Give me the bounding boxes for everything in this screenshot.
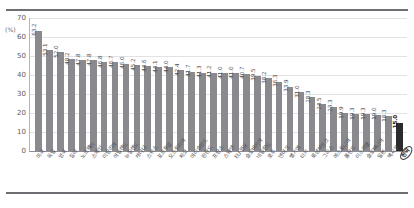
x-label-slot: 캐나다 (131, 154, 142, 200)
x-label-slot: 스위스 (142, 154, 153, 200)
bar-slot: 44.1 (153, 18, 164, 151)
x-label-slot: 프랑스 (208, 154, 219, 200)
x-label-slot: 영국 (54, 154, 65, 200)
y-axis-tick-label: 40 (17, 72, 26, 79)
bar-value-label: 47.8 (77, 53, 83, 65)
bar: 44.0 (166, 67, 173, 151)
bar-value-label: 44.6 (142, 59, 148, 71)
bar: 63.2 (35, 31, 42, 151)
bar-value-label: 40.7 (241, 67, 247, 79)
bar: 41.0 (232, 73, 239, 151)
x-label-slot: 스웨덴 (218, 154, 229, 200)
bar-value-label: 19.0 (372, 108, 378, 120)
bar-slot: 45.2 (131, 18, 142, 151)
bar-slot: 42.4 (175, 18, 186, 151)
top-divider-rule (6, 9, 408, 11)
bar-chart-figure: (%) 010203040506070 63.253.152.048.247.8… (0, 0, 414, 208)
bar-slot: 19.9 (339, 18, 350, 151)
y-axis-tick-label: 20 (17, 110, 26, 117)
bar-slot: 33.9 (285, 18, 296, 151)
y-axis-tick-label: 50 (17, 53, 26, 60)
bar-value-label: 53.1 (44, 43, 50, 55)
bar: 46.8 (101, 62, 108, 151)
bar: 31.0 (298, 92, 305, 151)
bar-value-label: 18.3 (383, 109, 389, 121)
bar-value-label: 33.9 (284, 80, 290, 92)
bar-value-label: 19.3 (350, 107, 356, 119)
x-label-slot: 한국 (394, 154, 405, 200)
bar-slot: 48.2 (66, 18, 77, 151)
bar-value-label: 46.8 (99, 55, 105, 67)
bar-slot: 19.0 (372, 18, 383, 151)
bar: 52.0 (57, 52, 64, 151)
bar-value-label: 28.3 (306, 90, 312, 102)
x-label-slot: 그리스 (317, 154, 328, 200)
bar: 40.7 (243, 74, 250, 151)
bar-slot: 44.6 (142, 18, 153, 151)
y-axis-tick-label: 10 (17, 129, 26, 136)
bar-slot: 46.0 (121, 18, 132, 151)
x-label-slot: 폴란드 (339, 154, 350, 200)
bar-value-label: 38.2 (263, 71, 269, 83)
bar-slot: 28.3 (306, 18, 317, 151)
x-label-slot: 벨기에 (284, 154, 295, 200)
bar-value-label: 41.0 (219, 66, 225, 78)
bar: 28.3 (309, 97, 316, 151)
y-axis-tick-label: 60 (17, 34, 26, 41)
x-label-slot: 스페인 (87, 154, 98, 200)
bar-series: 63.253.152.048.247.847.846.846.746.045.2… (30, 18, 407, 151)
bar-slot: 31.0 (296, 18, 307, 151)
bar-value-label: 48.2 (66, 52, 72, 64)
bar-slot: 44.0 (164, 18, 175, 151)
x-label-slot: 멕시코 (383, 154, 394, 200)
bar-value-label: 46.7 (109, 55, 115, 67)
x-label-slot: 아이슬란드 (186, 154, 197, 200)
bar-slot: 41.0 (219, 18, 230, 151)
bar-value-label: 31.0 (295, 85, 301, 97)
bar: 48.2 (68, 59, 75, 151)
bar: 45.2 (134, 65, 141, 151)
bar-slot: 40.7 (241, 18, 252, 151)
x-label-slot: 독일 (43, 154, 54, 200)
bar-value-label: 63.2 (33, 24, 39, 36)
bar-value-label: 23.3 (328, 100, 334, 112)
bar-slot: 41.7 (186, 18, 197, 151)
bar: 41.7 (188, 72, 195, 151)
x-label-slot: 포르투갈 (153, 154, 164, 200)
x-label-slot: 이스라엘 (350, 154, 361, 200)
bar-slot: 46.8 (99, 18, 110, 151)
x-label-slot: 아일랜드 (109, 154, 120, 200)
x-label-slot: 네덜란드 (251, 154, 262, 200)
x-label-slot: 일본 (372, 154, 383, 200)
bar: 18.3 (385, 116, 392, 151)
x-label-slot: 칠레 (65, 154, 76, 200)
bar: 47.8 (79, 60, 86, 151)
x-label-slot: 슬로베니아 (361, 154, 372, 200)
bar-slot: 18.3 (383, 18, 394, 151)
x-label-slot: 이탈리아 (98, 154, 109, 200)
x-label-slot: 에스토니아 (328, 154, 339, 200)
bar-slot: 19.3 (350, 18, 361, 151)
bar-value-label: 41.3 (197, 66, 203, 78)
bar-value-label: 24.5 (317, 97, 323, 109)
bar-slot: 19.3 (361, 18, 372, 151)
bar-value-label: 36.3 (274, 75, 280, 87)
bar-value-label: 42.4 (175, 63, 181, 75)
bar-value-label: 19.9 (339, 106, 345, 118)
bar-value-label: 44.1 (153, 60, 159, 72)
y-axis-tick-label: 70 (17, 15, 26, 22)
bar: 23.3 (330, 107, 337, 151)
bar: 41.0 (221, 73, 228, 151)
bar-value-label: 39.5 (252, 69, 258, 81)
x-label-slot: 오스트리아 (164, 154, 175, 200)
bar-slot: 63.2 (33, 18, 44, 151)
bar: 44.1 (155, 67, 162, 151)
bar-slot: 47.8 (88, 18, 99, 151)
bar-value-label: 41.2 (208, 66, 214, 78)
bar: 44.6 (144, 66, 151, 151)
bar-slot: 39.5 (252, 18, 263, 151)
bar-value-label: 45.2 (131, 58, 137, 70)
bar-slot: 41.3 (197, 18, 208, 151)
y-axis-unit-label: (%) (5, 26, 16, 33)
x-label-slot: 뉴질랜드 (120, 154, 131, 200)
